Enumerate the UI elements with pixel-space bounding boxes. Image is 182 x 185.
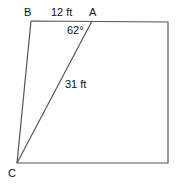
label-point-c: C xyxy=(8,167,16,179)
label-side-ac: 31 ft xyxy=(65,78,86,90)
quadrilateral-outline xyxy=(17,21,168,163)
geometry-diagram: B 12 ft A 62° 31 ft C xyxy=(0,0,182,185)
segment-ac xyxy=(17,21,92,163)
label-angle-a: 62° xyxy=(67,24,84,36)
label-point-b: B xyxy=(24,6,31,18)
label-point-a: A xyxy=(89,6,97,18)
label-side-ba: 12 ft xyxy=(51,6,72,18)
